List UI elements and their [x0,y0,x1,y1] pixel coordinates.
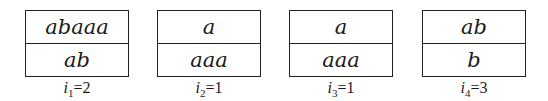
domino-4: ab b i4=3 [422,10,526,99]
domino-bottom: aaa [290,44,392,76]
domino-box: a aaa [289,10,393,77]
domino-box: ab b [422,10,526,77]
domino-bottom: b [423,44,525,76]
index-value: =1 [205,79,222,96]
domino-index-label: i3=1 [289,79,393,99]
index-value: =1 [337,79,354,96]
domino-box: a aaa [157,10,261,77]
domino-2: a aaa i2=1 [157,10,261,99]
domino-top: a [290,11,392,44]
index-value: =3 [470,79,487,96]
index-value: =2 [73,79,90,96]
domino-3: a aaa i3=1 [289,10,393,99]
domino-bottom: ab [26,44,128,76]
domino-1: abaaa ab i1=2 [25,10,129,99]
domino-index-label: i1=2 [25,79,129,99]
domino-top: ab [423,11,525,44]
domino-index-label: i4=3 [422,79,526,99]
domino-index-label: i2=1 [157,79,261,99]
domino-bottom: aaa [158,44,260,76]
domino-top: abaaa [26,11,128,44]
domino-top: a [158,11,260,44]
domino-box: abaaa ab [25,10,129,77]
